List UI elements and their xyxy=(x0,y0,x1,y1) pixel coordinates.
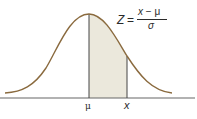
formula-numerator-op: − xyxy=(143,6,154,17)
x-label: x xyxy=(124,99,130,111)
formula-lhs: Z xyxy=(117,13,124,27)
mean-label: μ xyxy=(85,101,91,111)
formula-numerator-mu: μ xyxy=(154,6,160,17)
formula-equals: = xyxy=(127,13,134,27)
z-score-formula: Z = x − μ σ xyxy=(117,6,169,38)
formula-numerator: x − μ xyxy=(138,6,160,17)
formula-denominator: σ xyxy=(148,20,154,31)
